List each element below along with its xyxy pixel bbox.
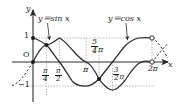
- five-fourths-pi-suffix: π: [98, 45, 103, 54]
- y-axis-label: y: [26, 4, 31, 13]
- right-dashed-crossing: [152, 43, 168, 62]
- origin-point: [31, 60, 35, 64]
- pi-over-4-numerator: π: [42, 68, 49, 75]
- annotation-five-fourths-pi: 5 4 π: [91, 37, 103, 56]
- cos-end-point: [150, 36, 154, 40]
- x-tick-label-pi: π: [83, 65, 88, 74]
- y-tick-label-neg-one: −1: [18, 80, 30, 89]
- x-tick-label-two-pi: 2π: [148, 64, 158, 73]
- x-tick-label-pi-over-4: π 4: [42, 65, 49, 84]
- pi-over-2-denominator: 2: [55, 75, 62, 83]
- axes: [12, 10, 168, 102]
- sin-curve-label: y＝sin x: [38, 12, 69, 23]
- cos-start-point: [31, 36, 35, 40]
- cos-label-leader: [126, 23, 128, 40]
- x-tick-label-pi-over-2: π 2: [55, 65, 62, 84]
- y-tick-label-one: 1: [24, 31, 29, 40]
- x-axis-label: x: [168, 60, 173, 69]
- sine-continuation-dashed: [152, 43, 168, 62]
- intersection-pi-4-point: [45, 43, 49, 47]
- x-tick-label-three-halves-pi: 3 2 π: [113, 64, 124, 83]
- intersection-5pi-4-point: [97, 77, 101, 81]
- origin-label: O: [23, 50, 30, 59]
- sin-label-leader: [48, 23, 50, 40]
- three-halves-pi-suffix: π: [119, 73, 124, 81]
- cosine-curve-dashed-tail: [152, 38, 168, 58]
- pi-over-2-numerator: π: [55, 68, 62, 75]
- pi-over-4-denominator: 4: [42, 75, 49, 83]
- cos-curve-label: y＝cos x: [108, 12, 141, 23]
